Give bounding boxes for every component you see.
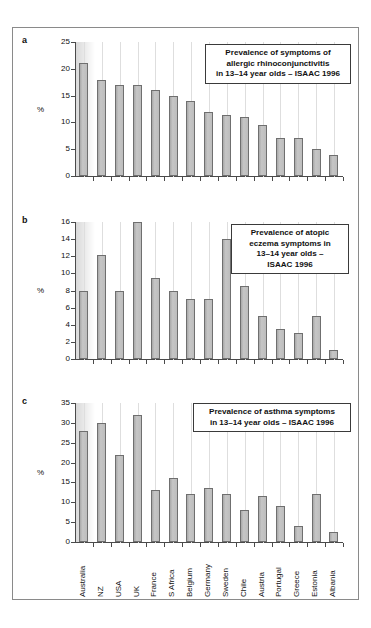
xtick-mark: [129, 360, 130, 364]
ytick-label: 30: [61, 419, 70, 427]
panel-b-ytick-0: 0: [75, 359, 76, 360]
xtick-mark: [93, 360, 94, 364]
ytick-label: 0: [66, 538, 70, 546]
ytick-mark: [71, 342, 75, 343]
ytick-mark: [71, 423, 75, 424]
xtick-mark: [254, 177, 255, 181]
xtick-mark: [343, 360, 344, 364]
xtick-mark: [289, 177, 290, 181]
panel-c-y-axis-label: %: [37, 468, 44, 477]
bar-australia: [79, 291, 88, 360]
xtick-mark: [200, 360, 201, 364]
ytick-mark: [71, 256, 75, 257]
panel-a-ytick-15: 15: [75, 96, 76, 97]
bar-chile: [240, 117, 249, 176]
ytick-mark: [71, 542, 75, 543]
bar-austria: [258, 316, 267, 359]
bar-sweden: [222, 494, 231, 542]
bar-s-africa: [169, 291, 178, 360]
xtick-mark: [325, 360, 326, 364]
xtick-mark: [218, 360, 219, 364]
xtick-mark: [164, 360, 165, 364]
ytick-label: 10: [61, 269, 70, 277]
x-label-germany: Germany: [204, 564, 212, 597]
bar-greece: [294, 333, 303, 359]
x-axis-category-labels: AustraliaNZUSAUKFranceS AfricaBelgiumGer…: [75, 545, 343, 597]
bar-portugal: [276, 138, 285, 176]
bar-uk: [133, 222, 142, 359]
xtick-mark: [289, 360, 290, 364]
callout-line: in 13–14 year olds – ISAAC 1996: [198, 418, 346, 429]
xtick-mark: [325, 177, 326, 181]
bar-chile: [240, 510, 249, 542]
bar-uk: [133, 85, 142, 176]
xtick-mark: [164, 177, 165, 181]
ytick-mark: [71, 222, 75, 223]
panel-c-ytick-35: 35: [75, 403, 76, 404]
x-label-australia: Australia: [79, 566, 87, 597]
ytick-mark: [71, 42, 75, 43]
ytick-mark: [71, 443, 75, 444]
xtick-mark: [146, 177, 147, 181]
bar-usa: [115, 85, 124, 176]
ytick-label: 25: [61, 439, 70, 447]
bar-belgium: [186, 299, 195, 359]
panel-b-ytick-14: 14: [75, 239, 76, 240]
bar-austria: [258, 496, 267, 542]
ytick-label: 5: [66, 518, 70, 526]
panel-b-ytick-2: 2: [75, 342, 76, 343]
panel-c-ytick-15: 15: [75, 482, 76, 483]
panel-b-ytick-4: 4: [75, 325, 76, 326]
bar-belgium: [186, 494, 195, 542]
ytick-label: 15: [61, 478, 70, 486]
panel-c-callout: Prevalence of asthma symptomsin 13–14 ye…: [193, 403, 351, 432]
xtick-mark: [218, 177, 219, 181]
bar-albania: [329, 155, 338, 176]
x-label-uk: UK: [133, 586, 141, 597]
callout-line: ISAAC 1996: [236, 260, 344, 271]
bar-australia: [79, 431, 88, 542]
figure-frame: a % 0510152025 Prevalence of symptoms of…: [12, 27, 359, 600]
xtick-mark: [146, 360, 147, 364]
bar-estonia: [312, 149, 321, 176]
bar-greece: [294, 526, 303, 542]
ytick-label: 6: [66, 304, 70, 312]
bar-s-africa: [169, 478, 178, 542]
x-label-sweden: Sweden: [222, 568, 230, 597]
xtick-mark: [343, 543, 344, 547]
bar-portugal: [276, 329, 285, 359]
ytick-label: 12: [61, 252, 70, 260]
x-label-albania: Albania: [329, 570, 337, 597]
ytick-label: 5: [66, 145, 70, 153]
callout-line: Prevalence of atopic: [236, 228, 344, 239]
bar-sweden: [222, 115, 231, 176]
panel-a-ytick-20: 20: [75, 69, 76, 70]
bar-france: [151, 90, 160, 176]
bar-france: [151, 278, 160, 359]
panel-c-ytick-10: 10: [75, 502, 76, 503]
x-label-austria: Austria: [258, 572, 266, 597]
callout-line: allergic rhinoconjunctivitis: [210, 59, 346, 70]
bar-portugal: [276, 506, 285, 542]
x-label-belgium: Belgium: [186, 568, 194, 597]
xtick-mark: [307, 177, 308, 181]
ytick-mark: [71, 96, 75, 97]
xtick-mark: [254, 360, 255, 364]
ytick-mark: [71, 239, 75, 240]
ytick-mark: [71, 122, 75, 123]
ytick-label: 10: [61, 118, 70, 126]
ytick-mark: [71, 403, 75, 404]
xtick-mark: [272, 177, 273, 181]
bar-nz: [97, 423, 106, 542]
bar-france: [151, 490, 160, 542]
ytick-mark: [71, 149, 75, 150]
callout-line: 13–14 year olds –: [236, 249, 344, 260]
callout-line: Prevalence of asthma symptoms: [198, 407, 346, 418]
bar-germany: [204, 112, 213, 176]
ytick-mark: [71, 69, 75, 70]
panel-c-letter: c: [22, 397, 27, 406]
bar-germany: [204, 488, 213, 542]
ytick-mark: [71, 482, 75, 483]
bar-s-africa: [169, 96, 178, 176]
xtick-mark: [111, 360, 112, 364]
